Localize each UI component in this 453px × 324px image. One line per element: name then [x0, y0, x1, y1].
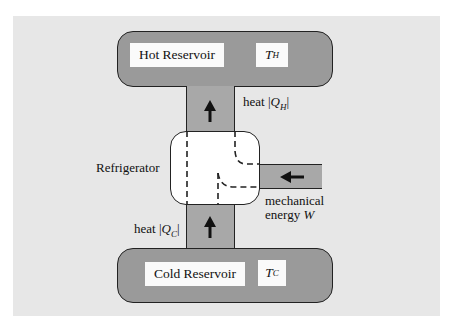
- heat-symbol: Q: [162, 221, 171, 236]
- up-arrow-icon: [204, 216, 216, 240]
- temperature-subscript: C: [273, 268, 279, 278]
- energy-prefix: energy: [265, 207, 303, 222]
- temperature-subscript: H: [273, 50, 280, 60]
- left-arrow-icon: [280, 171, 306, 183]
- mechanical-energy-label: mechanical energy W: [265, 194, 324, 222]
- temperature-symbol: T: [265, 47, 273, 63]
- heat-hot-label: heat |QH|: [243, 94, 289, 112]
- heat-symbol: Q: [271, 94, 280, 109]
- heat-cold-label: heat |QC|: [134, 221, 180, 239]
- temperature-symbol: T: [265, 265, 273, 281]
- up-arrow-icon: [204, 100, 216, 124]
- hot-reservoir: Hot Reservoir TH: [117, 31, 333, 87]
- heat-prefix: heat |: [134, 221, 162, 236]
- cold-reservoir-label-text: Cold Reservoir: [154, 266, 236, 282]
- hot-temperature-label: TH: [256, 43, 288, 67]
- cold-reservoir-label: Cold Reservoir: [145, 262, 245, 286]
- work-symbol: W: [303, 207, 314, 222]
- heat-suffix: |: [286, 94, 289, 109]
- heat-prefix: heat |: [243, 94, 271, 109]
- hot-reservoir-label-text: Hot Reservoir: [139, 47, 215, 63]
- hot-reservoir-label: Hot Reservoir: [130, 43, 224, 67]
- energy-w-text: energy W: [265, 208, 324, 222]
- heat-suffix: |: [177, 221, 180, 236]
- mechanical-text: mechanical: [265, 194, 324, 208]
- cold-temperature-label: TC: [258, 260, 286, 286]
- internal-flow-lines: [170, 131, 260, 205]
- cold-reservoir: Cold Reservoir TC: [117, 248, 333, 303]
- refrigerator-label: Refrigerator: [96, 160, 160, 176]
